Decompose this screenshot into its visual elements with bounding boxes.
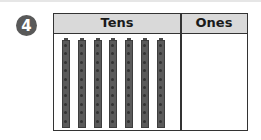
tens-rod-icon [125, 38, 133, 128]
tens-rod-icon [157, 38, 165, 128]
table-header: Tens Ones [54, 14, 247, 34]
tens-rods-area [62, 38, 177, 128]
problem-number: 4 [21, 17, 31, 35]
top-divider [0, 0, 261, 2]
tens-rod-icon [94, 38, 102, 128]
tens-rod-icon [141, 38, 149, 128]
problem-number-badge: 4 [16, 15, 37, 36]
header-tens: Tens [54, 14, 180, 32]
tens-rod-icon [78, 38, 86, 128]
tens-rod-icon [109, 38, 117, 128]
header-ones: Ones [181, 14, 247, 32]
place-value-table: Tens Ones [53, 13, 248, 131]
ones-area [182, 34, 247, 130]
tens-rod-icon [62, 38, 70, 128]
